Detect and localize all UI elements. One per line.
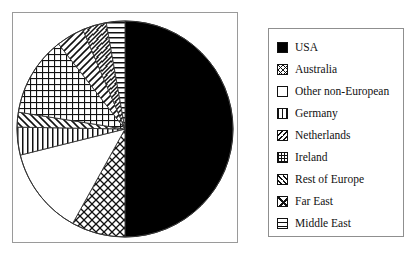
white-swatch-icon xyxy=(277,86,288,97)
crosshatch-swatch-icon xyxy=(277,196,288,207)
pie-chart xyxy=(12,12,240,245)
diagonal-crosshatch-swatch-icon xyxy=(277,64,288,75)
diagonal-stripes-swatch-icon xyxy=(277,130,288,141)
legend-item-ireland[interactable]: Ireland xyxy=(277,146,403,168)
vertical-lines-swatch-icon xyxy=(277,108,288,119)
legend-item-germany[interactable]: Germany xyxy=(277,102,403,124)
legend-item-usa[interactable]: USA xyxy=(277,36,403,58)
legend-item-label: Germany xyxy=(295,107,338,119)
legend-panel: USA Australia Other non-European Germany… xyxy=(268,28,404,237)
legend-item-label: Rest of Europe xyxy=(295,173,364,185)
legend-item-label: Other non-European xyxy=(295,85,389,97)
legend-item-middle-east[interactable]: Middle East xyxy=(277,212,403,234)
fine-grid-swatch-icon xyxy=(277,152,288,163)
legend-item-netherlands[interactable]: Netherlands xyxy=(277,124,403,146)
pie-slice-group xyxy=(17,21,233,237)
pie-chart-panel xyxy=(12,12,238,243)
legend-item-label: Middle East xyxy=(295,217,351,229)
chart-screenshot: USA Australia Other non-European Germany… xyxy=(0,0,416,262)
legend-item-label: Ireland xyxy=(295,151,328,163)
legend-item-label: Australia xyxy=(295,63,337,75)
horizontal-lines-swatch-icon xyxy=(277,218,288,229)
legend-item-other-non-european[interactable]: Other non-European xyxy=(277,80,403,102)
pie-slice[interactable] xyxy=(125,21,233,237)
legend-item-label: Far East xyxy=(295,195,333,207)
diagonal-stripes-2-swatch-icon xyxy=(277,174,288,185)
legend-item-rest-of-europe[interactable]: Rest of Europe xyxy=(277,168,403,190)
solid-black-swatch-icon xyxy=(277,42,288,53)
legend-item-label: USA xyxy=(295,41,318,53)
legend-item-label: Netherlands xyxy=(295,129,351,141)
legend-item-australia[interactable]: Australia xyxy=(277,58,403,80)
legend-item-far-east[interactable]: Far East xyxy=(277,190,403,212)
